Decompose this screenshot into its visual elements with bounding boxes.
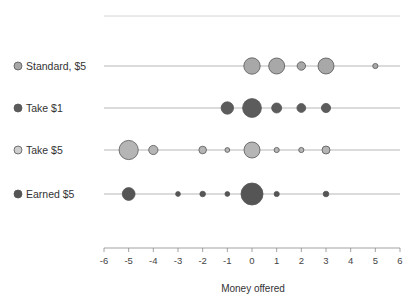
- x-tick-label: -4: [149, 255, 157, 266]
- data-bubble: [122, 188, 135, 201]
- data-bubble: [321, 103, 330, 112]
- data-bubble: [199, 146, 207, 154]
- data-bubble: [176, 192, 181, 197]
- data-bubble: [244, 142, 260, 158]
- data-bubble: [269, 58, 285, 74]
- bubble-chart: Standard, $5Take $1Take $5Earned $5 -6-5…: [0, 0, 416, 303]
- chart-canvas: Standard, $5Take $1Take $5Earned $5 -6-5…: [0, 0, 416, 303]
- legend-label-2: Take $1: [26, 102, 63, 114]
- legend-layer: Standard, $5Take $1Take $5Earned $5: [14, 60, 86, 200]
- data-bubble: [149, 145, 158, 154]
- data-bubble: [225, 192, 230, 197]
- data-bubble: [297, 104, 306, 113]
- x-tick-label: -1: [223, 255, 231, 266]
- legend-label-4: Earned $5: [26, 188, 75, 200]
- legend-marker-4: [14, 190, 22, 198]
- x-tick-label: 2: [299, 255, 304, 266]
- x-tick-label: 5: [373, 255, 378, 266]
- data-bubble: [272, 103, 282, 113]
- x-tick-label: -3: [174, 255, 182, 266]
- data-bubble: [274, 147, 279, 152]
- legend-marker-3: [14, 146, 22, 154]
- data-bubble: [318, 58, 334, 74]
- data-bubble: [274, 191, 279, 196]
- data-bubble: [241, 183, 263, 205]
- x-tick-label: 6: [397, 255, 402, 266]
- data-bubble: [200, 191, 206, 197]
- legend-label-1: Standard, $5: [26, 60, 86, 72]
- x-tick-label: 1: [274, 255, 279, 266]
- x-tick-label: 0: [249, 255, 254, 266]
- data-bubble: [297, 62, 305, 70]
- x-tick-label: 4: [348, 255, 353, 266]
- data-bubble: [373, 63, 378, 68]
- x-tick-label: -6: [100, 255, 108, 266]
- x-tick-label: -5: [124, 255, 132, 266]
- legend-marker-2: [14, 104, 22, 112]
- data-bubble: [244, 58, 260, 74]
- data-bubble: [322, 146, 330, 154]
- x-axis-title: Money offered: [221, 283, 285, 294]
- data-bubble: [299, 147, 304, 152]
- data-bubble: [119, 140, 138, 159]
- legend-label-3: Take $5: [26, 144, 63, 156]
- data-bubble: [221, 102, 233, 114]
- data-bubble: [323, 191, 329, 197]
- bubbles-layer: [119, 58, 378, 205]
- data-bubble: [225, 148, 230, 153]
- data-bubble: [243, 99, 262, 118]
- x-tick-label: 3: [323, 255, 328, 266]
- x-axis-layer: -6-5-4-3-2-10123456: [100, 248, 403, 266]
- x-tick-label: -2: [198, 255, 206, 266]
- legend-marker-1: [14, 62, 22, 70]
